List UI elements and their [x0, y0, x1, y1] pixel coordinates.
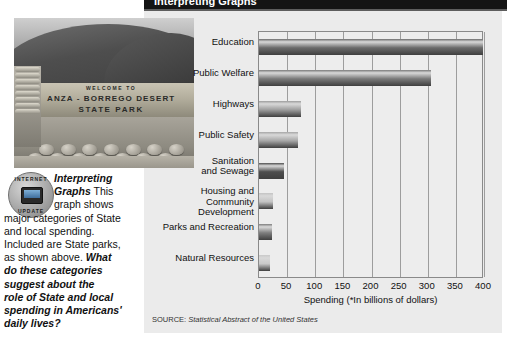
caption-question-4: role of State and local	[4, 291, 113, 303]
chart-bar	[259, 163, 284, 179]
section-banner: Interpreting Graphs	[144, 0, 507, 11]
chart-category-label: Natural Resources	[154, 253, 254, 264]
chart-bar	[259, 224, 272, 240]
source-text: Statistical Abstract of the United State…	[188, 315, 317, 324]
banner-title: Interpreting Graphs	[144, 0, 507, 6]
chart-bar-row: Education	[259, 32, 482, 63]
caption-block: Interpreting Graphs This graph shows maj…	[4, 172, 142, 330]
caption-line-11: spending in Americans'	[4, 304, 142, 317]
caption-line-1: Interpreting	[4, 172, 142, 185]
caption-line-8: do these categories	[4, 264, 142, 277]
chart-category-label: Sanitation and Sewage	[154, 156, 254, 177]
caption-question-5: spending in Americans'	[4, 304, 122, 316]
chart-category-label: Parks and Recreation	[154, 222, 254, 233]
chart-bar-row: Public Welfare	[259, 63, 482, 94]
caption-line-2: Graphs This	[4, 185, 142, 198]
caption-line-9: suggest about the	[4, 278, 142, 291]
chart-category-label: Housing and Community Development	[154, 186, 254, 218]
chart-bar	[259, 101, 301, 117]
chart-bar	[259, 193, 273, 209]
caption-heading-part-1: Interpreting	[54, 172, 112, 184]
x-axis-tick-label: 150	[334, 280, 350, 291]
photo-stone-pillar	[14, 66, 41, 147]
caption-line-7: as shown above. What	[4, 251, 142, 264]
chart-plot-area: EducationPublic WelfareHighwaysPublic Sa…	[258, 31, 483, 278]
x-axis-tick-label: 400	[475, 280, 491, 291]
caption-line-3: graph shows	[4, 198, 142, 211]
caption-line-4: major categories of State	[4, 212, 142, 225]
chart-category-label: Highways	[154, 99, 254, 110]
chart-bar	[259, 132, 298, 148]
x-axis-title: Spending (*In billions of dollars)	[258, 294, 483, 305]
panel-right-edge	[502, 11, 507, 333]
chart-bar-row: Sanitation and Sewage	[259, 156, 482, 187]
x-axis-tick-label: 200	[363, 280, 379, 291]
chart-bar-row: Housing and Community Development	[259, 186, 482, 217]
chart-bar-row: Public Safety	[259, 125, 482, 156]
caption-question-6: daily lives?	[4, 317, 61, 329]
x-axis-tick-label: 50	[281, 280, 292, 291]
chart-bar	[259, 39, 483, 55]
chart-bar-row: Parks and Recreation	[259, 217, 482, 248]
chart-gridline	[484, 32, 485, 277]
source-prefix: SOURCE:	[152, 315, 188, 324]
caption-line-12: daily lives?	[4, 317, 142, 330]
caption-question-3: suggest about the	[4, 278, 94, 290]
caption-text-2: This	[91, 185, 114, 197]
x-axis-tick-label: 0	[255, 280, 260, 291]
spending-bar-chart: EducationPublic WelfareHighwaysPublic Sa…	[152, 25, 497, 310]
chart-category-label: Education	[154, 37, 254, 48]
chart-bar-row: Natural Resources	[259, 248, 482, 279]
caption-text-7: as shown above.	[4, 251, 86, 263]
chart-bar	[259, 70, 431, 86]
x-axis-tick-label: 350	[447, 280, 463, 291]
chart-category-label: Public Welfare	[154, 68, 254, 79]
caption-line-6: Included are State parks,	[4, 238, 142, 251]
caption-question-2: do these categories	[4, 264, 103, 276]
x-axis-tick-label: 100	[306, 280, 322, 291]
caption-line-5: and local spending.	[4, 225, 142, 238]
caption-line-10: role of State and local	[4, 291, 142, 304]
chart-bar-row: Highways	[259, 94, 482, 125]
chart-category-label: Public Safety	[154, 130, 254, 141]
x-axis-tick-label: 300	[419, 280, 435, 291]
chart-source: SOURCE: Statistical Abstract of the Unit…	[152, 315, 318, 324]
x-axis-tick-label: 250	[391, 280, 407, 291]
caption-heading-part-2: Graphs	[54, 185, 91, 197]
chart-bar	[259, 255, 270, 271]
caption-question-start: What	[86, 251, 112, 263]
